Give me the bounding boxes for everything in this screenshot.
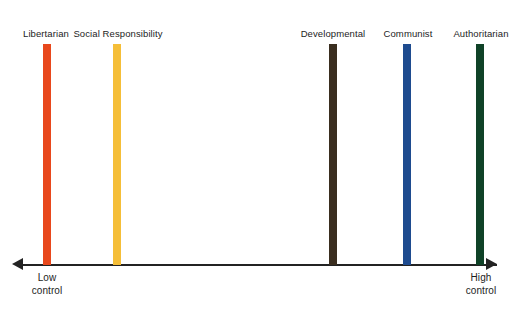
bar-communist — [403, 44, 411, 265]
bar-label-libertarian: Libertarian — [23, 28, 69, 39]
bar-label-communist: Communist — [384, 28, 433, 39]
bar-label-developmental: Developmental — [301, 28, 366, 39]
bar-label-social-responsibility: Social Responsibility — [73, 28, 162, 39]
axis-line — [20, 264, 497, 266]
bar-libertarian — [43, 44, 51, 265]
spectrum-chart: Libertarian Social Responsibility Develo… — [0, 0, 529, 310]
axis-caption-high-control: High control — [466, 272, 497, 297]
bar-authoritarian — [476, 44, 484, 265]
axis-caption-low-control: Low control — [32, 272, 63, 297]
axis-arrow-right-icon — [486, 258, 497, 270]
axis-arrow-left-icon — [12, 258, 23, 270]
bar-social-responsibility — [113, 44, 121, 265]
bar-developmental — [329, 44, 337, 265]
bar-label-authoritarian: Authoritarian — [453, 28, 508, 39]
